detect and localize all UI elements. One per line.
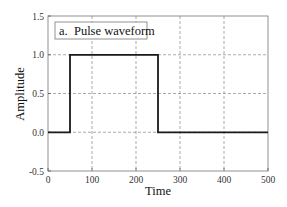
x-tick-label: 500 [261,175,276,185]
y-tick-label: 1.5 [32,12,44,22]
x-axis-ticks: 0100200300400500 [46,168,276,185]
legend-label: a. Pulse waveform [59,24,155,38]
y-tick-label: 1.0 [32,50,44,60]
y-tick-label: 0.0 [32,128,44,138]
y-tick-label: -0.5 [29,167,44,177]
legend: a. Pulse waveform [55,22,155,39]
x-axis-label: Time [145,184,171,198]
pulse-waveform-chart: 0100200300400500 -0.50.00.51.01.5 a. Pul… [0,0,287,207]
x-tick-label: 400 [217,175,232,185]
x-tick-label: 200 [129,175,144,185]
x-tick-label: 0 [46,175,51,185]
y-axis-label: Amplitude [13,67,27,121]
x-tick-label: 300 [173,175,188,185]
x-tick-label: 100 [85,175,100,185]
y-tick-label: 0.5 [32,89,44,99]
